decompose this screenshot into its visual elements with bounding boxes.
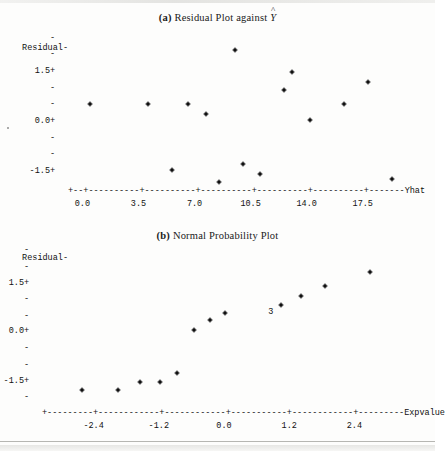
data-point: [241, 162, 244, 165]
x-axis-tick-label: -2.4: [83, 421, 103, 431]
y-axis-minor-tick: -: [16, 133, 58, 143]
x-axis-tick-label: 1.2: [282, 421, 297, 431]
data-point: [193, 329, 196, 332]
hat-accent: ^: [271, 6, 275, 15]
data-point: [204, 112, 207, 115]
x-axis-tick-label: 10.5: [240, 199, 260, 209]
data-point: [208, 319, 211, 322]
plot-b-title: (b) Normal Probability Plot: [0, 230, 435, 241]
plot-a-x-axis-line: +--+----------+----------+----------+---…: [68, 186, 425, 196]
y-axis-minor-tick: -: [0, 311, 32, 321]
data-point: [147, 102, 150, 105]
plot-b-x-tick-labels: -2.4-1.20.01.22.4: [0, 421, 435, 433]
x-axis-tick-label: 14.0: [296, 199, 316, 209]
plot-a-title-text: Residual Plot against: [174, 12, 267, 23]
x-axis-tick-label: 0.0: [75, 199, 90, 209]
y-axis-minor-tick: -: [0, 343, 32, 353]
data-point: [224, 312, 227, 315]
plot-normal-probability: (b) Normal Probability Plot Residual- --…: [0, 222, 435, 444]
y-axis-minor-tick: -: [16, 83, 58, 93]
data-point: [89, 102, 92, 105]
data-point: [280, 304, 283, 307]
y-axis-tick-neg1-5: -1.5+: [0, 376, 32, 386]
y-axis-tick-1neg5: 1.5+: [16, 66, 58, 76]
data-point: [283, 89, 286, 92]
data-point: [259, 172, 262, 175]
plot-a-title-lead: (a): [159, 12, 172, 23]
y-axis-minor-tick: -: [0, 245, 32, 255]
y-axis-minor-tick: -: [0, 294, 32, 304]
y-axis-tick-neg1-5: -1.5+: [16, 166, 58, 176]
y-axis-minor-tick: -: [0, 262, 32, 272]
overlap-count-label: 3: [268, 307, 273, 317]
x-axis-tick-label: -1.2: [149, 421, 169, 431]
data-point: [138, 380, 141, 383]
data-point: [233, 49, 236, 52]
data-point: [308, 119, 311, 122]
x-axis-tick-label: 17.5: [353, 199, 373, 209]
plot-b-x-axis-line: +---------+------------+------------+---…: [42, 408, 445, 418]
x-axis-tick-label: 3.5: [131, 199, 146, 209]
data-point: [176, 371, 179, 374]
y-axis-minor-tick: -: [16, 99, 58, 109]
plot-a-x-tick-labels: 0.03.57.010.514.017.5: [0, 199, 435, 211]
yhat-symbol: ^ Y: [270, 12, 276, 23]
x-axis-tick-label: 7.0: [187, 199, 202, 209]
data-point: [171, 169, 174, 172]
data-point: [80, 389, 83, 392]
data-point: [366, 81, 369, 84]
data-point: [291, 71, 294, 74]
data-point: [368, 270, 371, 273]
data-point: [300, 295, 303, 298]
y-axis-tick-0neg0: 0.0+: [0, 326, 32, 336]
data-point: [342, 102, 345, 105]
scan-speck: [7, 127, 9, 129]
data-point: [324, 284, 327, 287]
y-axis-minor-tick: -: [16, 149, 58, 159]
plot-a-title: (a) Residual Plot against ^ Y: [0, 12, 435, 23]
plot-b-title-text: Normal Probability Plot: [173, 230, 279, 241]
data-point: [390, 178, 393, 181]
data-point: [158, 380, 161, 383]
plot-b-title-lead: (b): [157, 230, 170, 241]
data-point: [217, 181, 220, 184]
x-axis-tick-label: 2.4: [347, 421, 362, 431]
plot-residual-vs-fitted: (a) Residual Plot against ^ Y Residual- …: [0, 0, 435, 225]
x-axis-tick-label: 0.0: [216, 421, 231, 431]
y-axis-tick-0neg0: 0.0+: [16, 116, 58, 126]
y-axis-minor-tick: -: [16, 33, 58, 43]
y-axis-tick-1neg5: 1.5+: [0, 278, 32, 288]
y-axis-minor-tick: -: [0, 360, 32, 370]
y-axis-minor-tick: -: [0, 392, 32, 402]
data-point: [117, 389, 120, 392]
y-axis-minor-tick: -: [16, 49, 58, 59]
data-point: [187, 102, 190, 105]
scan-edge-bottom: [0, 445, 435, 451]
